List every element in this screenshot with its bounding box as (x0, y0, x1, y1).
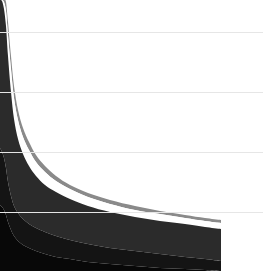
plot-area (0, 0, 263, 271)
chart-container (0, 0, 263, 271)
gridline-1 (0, 92, 263, 93)
gridline-layer (0, 0, 263, 271)
gridline-0 (0, 32, 263, 33)
gridline-3 (0, 212, 263, 213)
gridline-2 (0, 152, 263, 153)
